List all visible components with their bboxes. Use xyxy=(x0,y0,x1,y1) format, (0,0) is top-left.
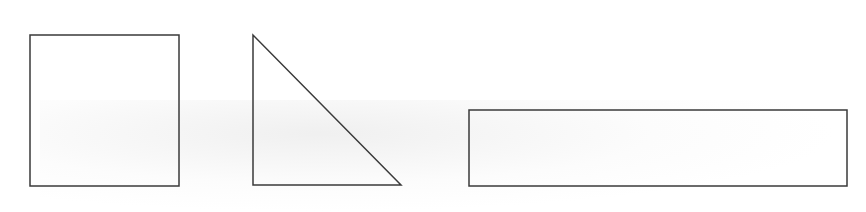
right-triangle-shape xyxy=(253,35,401,185)
shapes-svg xyxy=(0,0,866,212)
rectangle-shape xyxy=(469,110,847,186)
square-shape xyxy=(30,35,179,186)
diagram-canvas xyxy=(0,0,866,212)
